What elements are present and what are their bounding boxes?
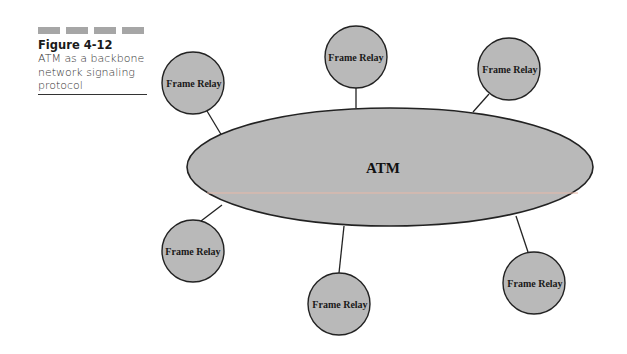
frame-relay-label: Frame Relay	[166, 78, 221, 89]
atm-label: ATM	[366, 160, 400, 176]
connector-line	[339, 226, 344, 273]
network-diagram: ATM Frame Relay Frame Relay Frame Relay …	[0, 0, 627, 354]
connector-line	[207, 111, 222, 136]
frame-relay-node: Frame Relay	[308, 273, 370, 335]
connector-line	[201, 205, 222, 221]
connector-line	[473, 94, 489, 112]
connector-line	[516, 216, 528, 252]
frame-relay-label: Frame Relay	[482, 64, 537, 75]
frame-relay-node: Frame Relay	[162, 52, 224, 114]
frame-relay-node: Frame Relay	[325, 26, 387, 88]
frame-relay-label: Frame Relay	[507, 278, 562, 289]
frame-relay-label: Frame Relay	[312, 299, 367, 310]
atm-backbone: ATM	[187, 108, 593, 226]
frame-relay-label: Frame Relay	[165, 246, 220, 257]
frame-relay-node: Frame Relay	[162, 220, 224, 282]
frame-relay-node: Frame Relay	[503, 252, 565, 314]
frame-relay-node: Frame Relay	[478, 38, 540, 100]
frame-relay-label: Frame Relay	[328, 52, 383, 63]
